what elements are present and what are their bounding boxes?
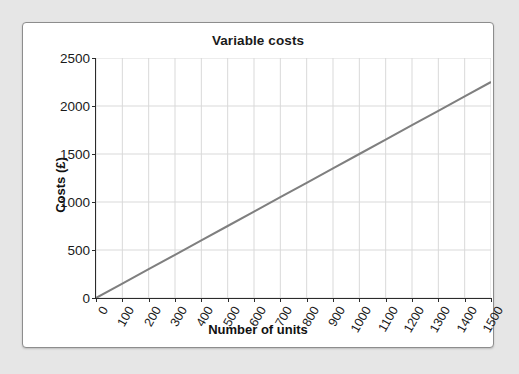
- x-tick-mark: [280, 298, 281, 302]
- x-axis-line: [95, 298, 491, 299]
- y-tick-mark: [92, 106, 96, 107]
- x-tick-mark: [228, 298, 229, 302]
- x-tick-mark: [386, 298, 387, 302]
- plot-area: 05001000150020002500 0100200300400500600…: [96, 58, 491, 298]
- x-tick-mark: [254, 298, 255, 302]
- x-tick-label: 1500: [480, 304, 506, 335]
- x-tick-mark: [359, 298, 360, 302]
- y-tick-mark: [92, 250, 96, 251]
- x-tick-mark: [122, 298, 123, 302]
- y-tick-label: 500: [67, 243, 90, 258]
- x-tick-mark: [201, 298, 202, 302]
- chart-card: Variable costs Costs (£) Number of units…: [22, 22, 494, 348]
- x-tick-mark: [491, 298, 492, 302]
- y-tick-mark: [92, 154, 96, 155]
- x-tick-mark: [175, 298, 176, 302]
- x-tick-mark: [333, 298, 334, 302]
- chart-title: Variable costs: [23, 33, 493, 48]
- x-tick-mark: [96, 298, 97, 302]
- x-tick-label: 0: [96, 304, 112, 317]
- y-tick-label: 0: [82, 291, 90, 306]
- x-tick-mark: [149, 298, 150, 302]
- y-tick-mark: [92, 202, 96, 203]
- x-tick-mark: [307, 298, 308, 302]
- series-line: [96, 82, 491, 298]
- grid-and-series: [96, 58, 491, 298]
- y-axis-line: [95, 58, 96, 298]
- x-tick-mark: [438, 298, 439, 302]
- x-tick-mark: [465, 298, 466, 302]
- screenshot-root: Variable costs Costs (£) Number of units…: [0, 0, 519, 374]
- y-tick-label: 2500: [60, 51, 90, 66]
- y-tick-label: 2000: [60, 99, 90, 114]
- y-tick-mark: [92, 58, 96, 59]
- y-tick-label: 1000: [60, 195, 90, 210]
- x-tick-mark: [412, 298, 413, 302]
- y-tick-label: 1500: [60, 147, 90, 162]
